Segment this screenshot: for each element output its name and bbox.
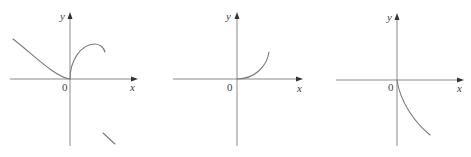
y-axis-label: y bbox=[386, 11, 392, 23]
x-axis-label: x bbox=[129, 81, 135, 93]
graph-panel-1: y x 0 bbox=[10, 10, 138, 146]
graph-panel-3: y x 0 bbox=[336, 11, 464, 146]
origin-label: 0 bbox=[227, 81, 233, 93]
x-axis-arrow-icon bbox=[296, 77, 303, 82]
x-axis-label: x bbox=[296, 82, 302, 94]
y-axis-arrow-icon bbox=[395, 13, 400, 20]
curve-fragment bbox=[103, 133, 115, 144]
y-axis-arrow-icon bbox=[235, 12, 240, 19]
origin-label: 0 bbox=[62, 81, 68, 93]
function-graphs-figure: y x 0 y x 0 y x 0 bbox=[0, 0, 471, 157]
curve-right-branch bbox=[70, 44, 105, 79]
x-axis-label: x bbox=[456, 82, 462, 94]
y-axis-label: y bbox=[59, 10, 65, 22]
graph-panel-2: y x 0 bbox=[173, 10, 303, 146]
origin-label: 0 bbox=[388, 81, 394, 93]
y-axis-arrow-icon bbox=[68, 12, 73, 19]
curve-left-branch bbox=[13, 39, 70, 79]
curve bbox=[397, 80, 430, 135]
curve bbox=[237, 52, 269, 79]
y-axis-label: y bbox=[225, 10, 231, 22]
